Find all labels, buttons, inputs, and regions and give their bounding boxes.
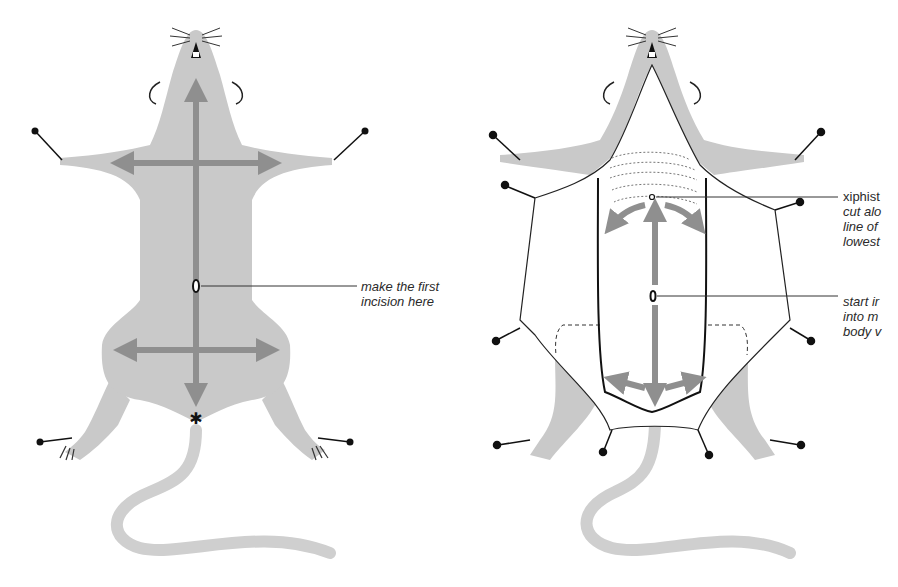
label-first-incision: make the first incision here [361, 279, 439, 309]
left-rat: ✱ [32, 28, 369, 553]
label-line: cut alo [843, 204, 881, 219]
page-edge-fade [890, 0, 898, 587]
left-rat-ear-right [232, 82, 242, 104]
first-incision-mark [193, 280, 199, 292]
pin-left-fore [32, 128, 63, 161]
right-rat-ear-left [604, 82, 614, 104]
label-line: incision here [361, 294, 439, 309]
left-rat-ear-left [150, 82, 160, 104]
label-start-incision: start ir into m body v [843, 294, 881, 339]
pin-right-fore [334, 128, 369, 161]
xiphisternum-mark [650, 195, 655, 200]
label-line: make the first [361, 279, 439, 294]
anus-star-icon: ✱ [189, 409, 202, 428]
pin-right-hind [318, 438, 354, 446]
label-line: body v [843, 324, 881, 339]
label-xiphisternum: xiphist cut alo line of lowest [843, 189, 881, 249]
label-line: lowest [843, 234, 881, 249]
right-rat-ear-right [690, 82, 700, 104]
label-line: into m [843, 309, 881, 324]
diagram-canvas: ✱ [0, 0, 898, 587]
right-rat [490, 28, 839, 553]
label-line: start ir [843, 294, 881, 309]
label-line: xiphist [843, 189, 881, 204]
start-incision-mark [651, 291, 656, 301]
pin-left-hind [37, 438, 73, 446]
dissection-diagram: ✱ [0, 0, 898, 587]
label-line: line of [843, 219, 881, 234]
